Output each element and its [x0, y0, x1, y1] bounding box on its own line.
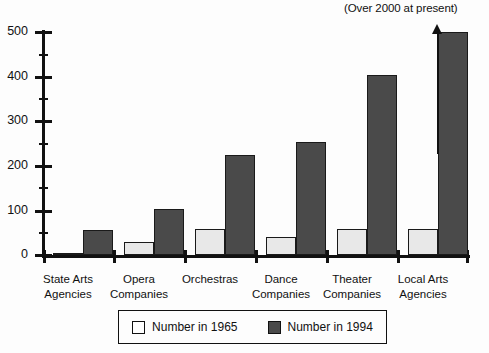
x-separator-1 [113, 250, 116, 263]
bar-state-arts-agencies-1994 [83, 230, 113, 255]
legend-swatch-1994-icon [268, 321, 281, 334]
bar-dance-companies-1965 [266, 237, 296, 255]
x-label-orchestras: Orchestras [175, 272, 245, 287]
x-label-opera-companies: Opera Companies [104, 272, 174, 301]
y-axis-label-300: 300 [0, 114, 28, 126]
x-label-theater-companies: Theater Companies [317, 272, 387, 301]
y-tick-minor-50 [39, 232, 48, 234]
growth-arrow-head [432, 24, 442, 34]
y-tick-100 [35, 210, 52, 213]
x-label-state-arts-agencies: State Arts Agencies [33, 272, 103, 301]
bar-opera-companies-1965 [124, 242, 154, 255]
bar-orchestras-1965 [195, 229, 225, 255]
bar-local-arts-agencies-1965 [408, 229, 438, 255]
x-separator-4 [326, 250, 329, 263]
y-tick-minor-150 [39, 187, 48, 189]
x-label-line-1: Dance [246, 272, 316, 287]
bar-theater-companies-1994 [367, 75, 397, 255]
x-label-line-2: Agencies [388, 287, 458, 302]
y-tick-500 [35, 31, 52, 34]
x-label-line-1: State Arts [33, 272, 103, 287]
x-label-dance-companies: Dance Companies [246, 272, 316, 301]
y-axis-label-500: 500 [0, 25, 28, 37]
y-tick-minor-250 [39, 143, 48, 145]
x-label-line-1: Local Arts [388, 272, 458, 287]
x-label-line-2: Agencies [33, 287, 103, 302]
y-tick-400 [35, 76, 52, 79]
y-tick-300 [35, 120, 52, 123]
legend-item-1994[interactable]: Number in 1994 [268, 320, 373, 334]
legend-item-1965[interactable]: Number in 1965 [132, 320, 237, 334]
x-separator-0 [43, 250, 46, 263]
y-tick-minor-350 [39, 98, 48, 100]
x-separator-3 [255, 250, 258, 263]
x-label-line-1: Orchestras [175, 272, 245, 287]
y-tick-minor-450 [39, 54, 48, 56]
bar-local-arts-agencies-1994 [438, 32, 468, 255]
y-axis-label-400: 400 [0, 70, 28, 82]
x-label-line-2: Companies [317, 287, 387, 302]
x-label-line-1: Opera [104, 272, 174, 287]
x-separator-5 [397, 250, 400, 263]
x-separator-2 [184, 250, 187, 263]
plot-area: 500 400 300 200 100 0 [0, 0, 489, 353]
y-axis-label-200: 200 [0, 159, 28, 171]
legend-swatch-1965-icon [132, 321, 145, 334]
x-label-line-2: Companies [246, 287, 316, 302]
chart-legend: Number in 1965 Number in 1994 [118, 310, 387, 344]
growth-arrow-shaft [437, 32, 439, 154]
x-label-line-1: Theater [317, 272, 387, 287]
legend-label-1965: Number in 1965 [152, 320, 237, 334]
bar-opera-companies-1994 [154, 209, 184, 255]
bar-orchestras-1994 [225, 155, 255, 255]
bar-dance-companies-1994 [296, 142, 326, 255]
y-axis-label-100: 100 [0, 204, 28, 216]
y-tick-200 [35, 165, 52, 168]
x-label-local-arts-agencies: Local Arts Agencies [388, 272, 458, 301]
bar-theater-companies-1965 [337, 229, 367, 255]
bar-chart: (Over 2000 at present) 500 400 300 200 1… [0, 0, 489, 353]
x-label-line-2: Companies [104, 287, 174, 302]
bar-state-arts-agencies-1965 [53, 253, 83, 255]
y-axis-label-0: 0 [0, 248, 28, 260]
legend-label-1994: Number in 1994 [288, 320, 373, 334]
